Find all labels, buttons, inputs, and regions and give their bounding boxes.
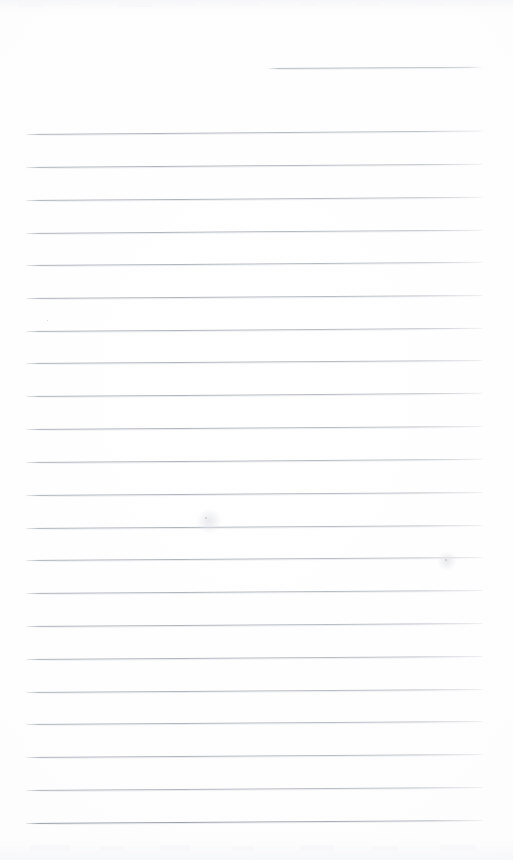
ink-speck — [205, 517, 207, 519]
ruled-line — [26, 721, 484, 725]
scan-fleck — [300, 1, 318, 6]
scan-fleck — [300, 845, 334, 851]
ruled-line — [26, 360, 484, 364]
ruled-line — [26, 426, 484, 430]
ruled-line — [26, 197, 484, 201]
ruled-line — [26, 295, 484, 299]
paper-smudge — [437, 551, 457, 571]
scan-band-bottom — [0, 834, 513, 860]
ruled-line — [26, 689, 484, 693]
ruled-line — [26, 557, 484, 561]
ruled-line — [26, 590, 484, 594]
paper-smudge — [196, 508, 222, 534]
ink-speck — [47, 320, 48, 321]
scan-fleck — [356, 2, 378, 6]
scan-fleck — [372, 846, 398, 851]
ruled-line — [26, 130, 484, 135]
ruled-line — [26, 820, 484, 824]
ruled-line — [26, 328, 484, 332]
scan-fleck — [440, 845, 476, 851]
ruled-line — [26, 656, 484, 660]
scan-fleck — [18, 2, 44, 7]
scan-fleck — [100, 846, 124, 851]
scan-fleck — [472, 2, 488, 6]
ruled-line — [26, 393, 484, 397]
notepad-page — [0, 0, 513, 860]
ruled-line — [26, 525, 484, 529]
ruled-line — [26, 492, 484, 496]
scan-band-top — [0, 0, 513, 14]
scan-fleck — [232, 846, 254, 851]
scan-fleck — [30, 845, 70, 851]
scan-fleck — [416, 1, 446, 6]
ruled-line — [26, 262, 484, 266]
scan-fleck — [118, 2, 152, 7]
scan-fleck — [64, 1, 78, 5]
ruled-line — [26, 459, 484, 463]
ruled-line — [26, 754, 484, 758]
ruled-line — [26, 787, 484, 791]
ruled-line — [26, 623, 484, 627]
scan-fleck — [160, 845, 190, 851]
ruled-line — [26, 164, 484, 168]
ruled-line — [26, 230, 484, 234]
scan-fleck — [176, 1, 196, 6]
scan-fleck — [232, 2, 260, 6]
short-rule — [268, 67, 483, 69]
